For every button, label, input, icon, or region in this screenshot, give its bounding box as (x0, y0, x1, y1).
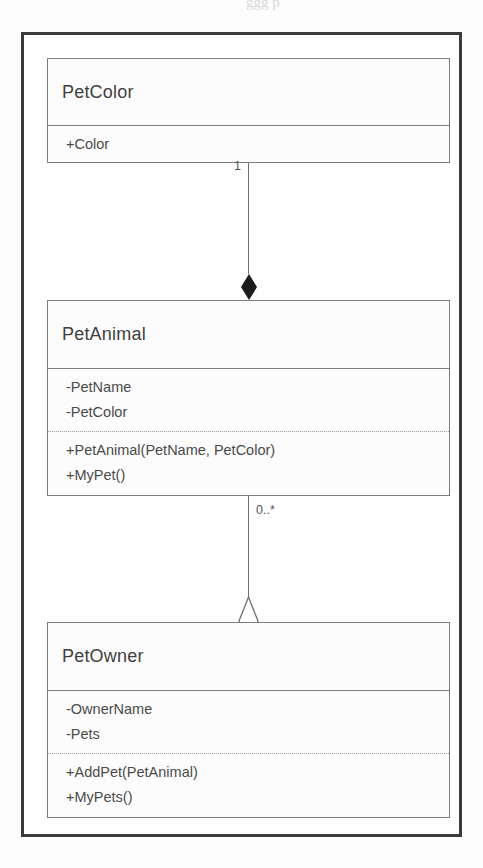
petowner-class-name: PetOwner (48, 623, 449, 690)
petowner-attributes: -OwnerName -Pets (48, 690, 449, 753)
multiplicity-petcolor-one: 1 (234, 159, 241, 173)
multiplicity-petanimal-zero-to-many: 0..* (256, 503, 275, 517)
petcolor-class-name: PetColor (48, 59, 449, 125)
uml-class-petcolor[interactable]: PetColor +Color (47, 58, 450, 163)
petanimal-attribute-petcolor: -PetColor (48, 400, 449, 425)
petcolor-attributes: +Color (48, 125, 449, 164)
petcolor-attribute-color: +Color (48, 132, 449, 157)
petowner-operation-addpet: +AddPet(PetAnimal) (48, 760, 449, 785)
page-canvas: ggg p PetColor +Color 1 PetAnimal -PetNa… (0, 0, 483, 868)
petanimal-operation-constructor: +PetAnimal(PetName, PetColor) (48, 438, 449, 463)
petcolor-name-compartment: PetColor (48, 59, 449, 125)
connector-petcolor-petanimal (248, 163, 249, 274)
petanimal-class-name: PetAnimal (48, 301, 449, 368)
petanimal-operation-mypet: +MyPet() (48, 463, 449, 488)
page-bleed-text: ggg p (246, 0, 280, 11)
uml-class-petowner[interactable]: PetOwner -OwnerName -Pets +AddPet(PetAni… (47, 622, 450, 818)
petowner-attribute-pets: -Pets (48, 722, 449, 747)
uml-diagram-frame: PetColor +Color 1 PetAnimal -PetName -Pe… (21, 32, 462, 837)
petowner-name-compartment: PetOwner (48, 623, 449, 690)
petowner-operation-mypets: +MyPets() (48, 785, 449, 810)
petanimal-attributes: -PetName -PetColor (48, 368, 449, 431)
petanimal-operations: +PetAnimal(PetName, PetColor) +MyPet() (48, 431, 449, 496)
petanimal-name-compartment: PetAnimal (48, 301, 449, 368)
uml-class-petanimal[interactable]: PetAnimal -PetName -PetColor +PetAnimal(… (47, 300, 450, 496)
petowner-attribute-ownername: -OwnerName (48, 697, 449, 722)
connector-petanimal-petowner (248, 496, 249, 598)
petanimal-attribute-petname: -PetName (48, 375, 449, 400)
petowner-operations: +AddPet(PetAnimal) +MyPets() (48, 753, 449, 818)
